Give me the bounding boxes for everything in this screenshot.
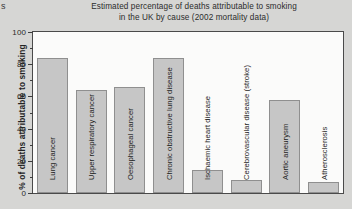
- bar-category-label: Atherosclerosis: [319, 127, 328, 180]
- bar: [76, 90, 107, 193]
- bar: [153, 58, 184, 193]
- bar: [231, 180, 262, 193]
- bar: [192, 170, 223, 193]
- y-axis-tick-mark: [28, 96, 33, 97]
- bar: [37, 58, 68, 193]
- bar-category-label: Cerebrovascular disease (stroke): [242, 65, 251, 180]
- bar: [269, 100, 300, 193]
- y-axis-tick-mark: [28, 193, 33, 194]
- stray-text-fragment: s: [1, 1, 6, 11]
- plot-area: 020406080100 Lung cancerUpper respirator…: [32, 31, 344, 194]
- y-axis-tick-mark: [30, 80, 33, 81]
- y-axis-tick-mark: [28, 161, 33, 162]
- y-axis-tick-mark: [28, 32, 33, 33]
- y-axis-tick-label: 60: [17, 92, 26, 101]
- y-axis-tick-mark: [28, 129, 33, 130]
- chart-title-line-2: in the UK by cause (2002 mortality data): [44, 13, 344, 24]
- bar: [308, 182, 339, 193]
- chart-title: Estimated percentage of deaths attributa…: [44, 2, 344, 23]
- y-axis-tick-mark: [30, 177, 33, 178]
- y-axis-tick-label: 20: [17, 156, 26, 165]
- chart-title-line-1: Estimated percentage of deaths attributa…: [44, 2, 344, 13]
- y-axis-tick-label: 80: [17, 60, 26, 69]
- y-axis-tick-label: 0: [21, 189, 26, 198]
- y-axis-tick-label: 40: [17, 124, 26, 133]
- bar: [114, 87, 145, 193]
- chart-figure: s Estimated percentage of deaths attribu…: [0, 0, 352, 209]
- y-axis-tick-mark: [30, 145, 33, 146]
- y-axis-tick-label: 100: [12, 28, 26, 37]
- y-axis-tick-mark: [30, 48, 33, 49]
- y-axis-tick-mark: [30, 113, 33, 114]
- y-axis-tick-mark: [28, 64, 33, 65]
- bar-category-label: Ischaemic heart disease: [203, 96, 212, 180]
